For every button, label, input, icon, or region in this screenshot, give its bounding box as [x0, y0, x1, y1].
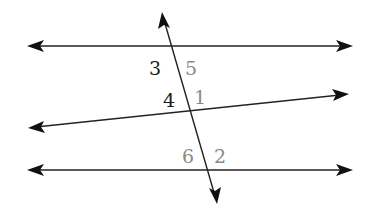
- angle-label-6: 6: [182, 145, 194, 167]
- angle-label-1: 1: [194, 86, 206, 108]
- arrowhead-top: [158, 12, 170, 29]
- angle-label-2: 2: [214, 145, 226, 167]
- angle-diagram: 3 5 4 1 6 2: [0, 0, 368, 211]
- angle-label-3: 3: [149, 57, 161, 79]
- angle-label-5: 5: [185, 57, 197, 79]
- middle-line: [28, 89, 349, 133]
- top-line: [27, 40, 353, 52]
- arrowhead-bottom: [209, 187, 221, 204]
- angle-label-4: 4: [163, 89, 175, 111]
